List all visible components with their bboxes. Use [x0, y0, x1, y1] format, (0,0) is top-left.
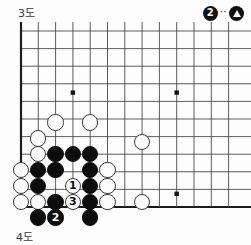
- white-stone: [99, 162, 115, 178]
- star-point: [175, 192, 179, 196]
- diagram-legend: 2 ··: [203, 4, 244, 22]
- move-stone-3: 3: [65, 194, 81, 210]
- triangle-icon: [233, 10, 241, 17]
- white-stone: [99, 178, 115, 194]
- move-stone-2: 2: [47, 209, 63, 225]
- white-stone: [99, 194, 115, 210]
- white-stone: [47, 114, 63, 130]
- black-stone: [47, 194, 63, 210]
- white-stone: [13, 178, 29, 194]
- stone-move-number: 1: [69, 180, 77, 191]
- white-stone: [134, 194, 150, 210]
- black-stone: [30, 209, 46, 225]
- black-stone: [82, 209, 98, 225]
- go-board[interactable]: 132: [0, 22, 251, 222]
- legend-numbered-black-stone: 2: [203, 6, 218, 21]
- star-point: [175, 90, 179, 94]
- white-stone: [30, 130, 46, 146]
- legend-connector-dots: ··: [220, 7, 227, 20]
- stone-move-number: 2: [52, 212, 60, 223]
- diagram-bottom-caption: 4도: [16, 228, 33, 244]
- move-stone-1: 1: [65, 178, 81, 194]
- go-diagram-page: 3도 2 ·· 132 4도: [0, 0, 251, 245]
- legend-stone-label: 2: [207, 8, 214, 18]
- stone-move-number: 3: [69, 196, 77, 207]
- black-stone: [47, 146, 63, 162]
- black-stone: [47, 162, 63, 178]
- star-point: [71, 90, 75, 94]
- triangle-marked-black-stone-icon: [229, 6, 244, 21]
- white-stone: [13, 194, 29, 210]
- diagram-top-caption: 3도: [18, 4, 35, 20]
- white-stone: [82, 114, 98, 130]
